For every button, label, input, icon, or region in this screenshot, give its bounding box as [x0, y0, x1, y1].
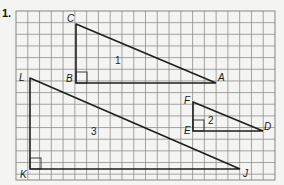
vertex-label-l: L: [19, 72, 25, 83]
right-angle-marker-e: [193, 120, 204, 131]
vertex-label-c: C: [67, 13, 75, 24]
vertex-label-f: F: [184, 95, 191, 106]
vertex-label-a: A: [217, 72, 225, 83]
triangle-label-2: 2: [208, 115, 214, 126]
triangle-grid-figure: 1. C B A 1 F E D 2 L K J 3: [0, 0, 284, 185]
graph-paper-grid: [16, 11, 275, 180]
vertex-label-b: B: [66, 73, 73, 84]
right-angle-marker-b: [76, 72, 87, 83]
vertex-label-j: J: [242, 168, 249, 179]
problem-number: 1.: [2, 7, 11, 19]
vertex-label-d: D: [264, 121, 271, 132]
triangle-label-3: 3: [91, 126, 97, 137]
triangle-1-sides: [76, 24, 216, 83]
triangle-label-1: 1: [115, 55, 121, 66]
vertex-label-e: E: [184, 125, 191, 136]
